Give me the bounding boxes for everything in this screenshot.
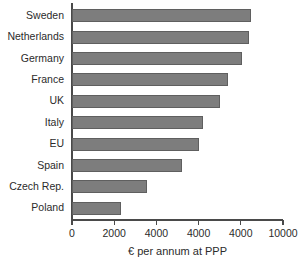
category-label: Germany xyxy=(21,53,64,64)
bar xyxy=(72,202,121,215)
category-label: Italy xyxy=(45,117,64,128)
tick-label: 4000 xyxy=(229,227,252,239)
category-label: France xyxy=(31,74,64,85)
tick-label: 0 xyxy=(69,227,75,239)
category-label: EU xyxy=(49,138,64,149)
category-label: Poland xyxy=(31,202,64,213)
tick-mark xyxy=(240,220,241,225)
tick-mark xyxy=(71,220,72,225)
bar xyxy=(72,180,147,193)
tick-mark xyxy=(114,220,115,225)
x-axis-line xyxy=(71,219,283,221)
category-label: UK xyxy=(49,95,64,106)
plot-area xyxy=(72,5,283,219)
tick-label: 2000 xyxy=(103,227,126,239)
category-axis-labels: SwedenNetherlandsGermanyFranceUKItalyEUS… xyxy=(0,5,68,219)
bar xyxy=(72,73,228,86)
category-label: Netherlands xyxy=(7,31,64,42)
bar xyxy=(72,116,203,129)
bar xyxy=(72,52,242,65)
tick-mark xyxy=(198,220,199,225)
category-label: Czech Rep. xyxy=(9,181,64,192)
bar xyxy=(72,159,182,172)
tick-mark xyxy=(282,220,283,225)
tick-label: 10000 xyxy=(268,227,297,239)
category-label: Spain xyxy=(37,160,64,171)
bar xyxy=(72,9,251,22)
tick-mark xyxy=(156,220,157,225)
bar-chart: SwedenNetherlandsGermanyFranceUKItalyEUS… xyxy=(0,0,302,268)
x-axis-title: € per annum at PPP xyxy=(72,245,283,258)
tick-label: 4000 xyxy=(145,227,168,239)
bar xyxy=(72,95,220,108)
bar xyxy=(72,31,249,44)
bar xyxy=(72,138,199,151)
tick-label: 4000 xyxy=(187,227,210,239)
category-label: Sweden xyxy=(26,10,64,21)
